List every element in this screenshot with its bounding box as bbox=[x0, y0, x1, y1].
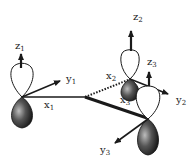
orbital-1-lower-lobe bbox=[12, 97, 33, 128]
z1-label: z1 bbox=[15, 40, 25, 53]
orbital-2-upper-lobe bbox=[121, 50, 139, 79]
y2-label: y2 bbox=[175, 94, 186, 107]
y1-label: y1 bbox=[65, 73, 76, 86]
x1-label: x1 bbox=[44, 99, 54, 112]
z2-label: z2 bbox=[133, 11, 143, 24]
y3-label: y3 bbox=[99, 144, 110, 157]
orbital-1 bbox=[11, 54, 60, 128]
orbital-1-upper-lobe bbox=[11, 63, 33, 97]
axis-labels: z1 y1 x1 z2 y2 x2 z3 y3 x3 bbox=[15, 11, 186, 157]
z3-label: z3 bbox=[147, 56, 157, 69]
x2-label: x2 bbox=[106, 70, 116, 83]
orbital-diagram: z1 y1 x1 z2 y2 x2 z3 y3 x3 bbox=[0, 0, 195, 162]
